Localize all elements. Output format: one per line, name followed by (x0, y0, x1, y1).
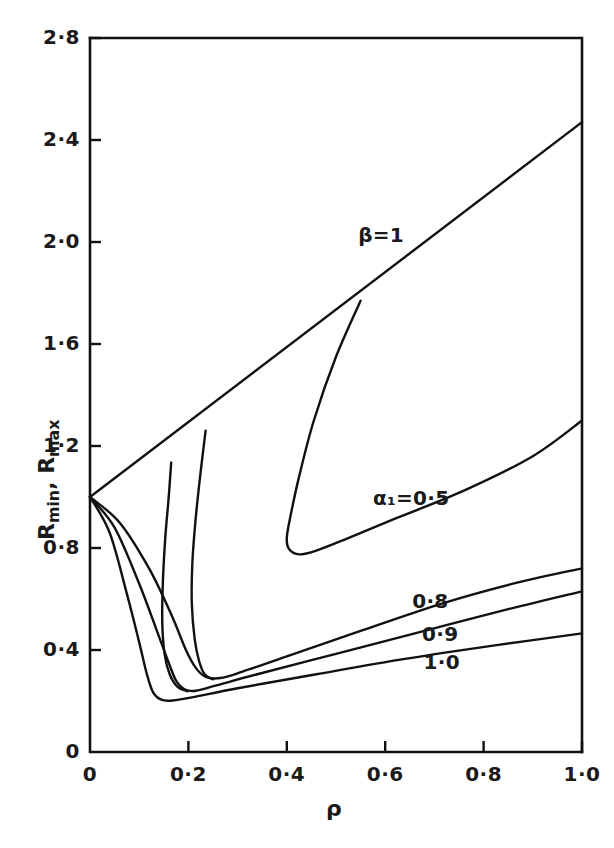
curve-label-alpha1=1.0: 1·0 (424, 650, 460, 674)
x-tick-label: 0·4 (247, 762, 327, 786)
curves-group (90, 122, 582, 701)
curve-alpha1=0.9 (90, 497, 582, 691)
figure-container: 00·40·81·21·62·02·42·800·20·40·60·81·0 β… (0, 0, 614, 848)
x-tick-label: 0·8 (444, 762, 524, 786)
curve-beta=1 (90, 122, 582, 497)
y-tick-label: 0 (8, 739, 80, 763)
y-axis-title: Rmin, Rmax (34, 420, 63, 541)
curve-inner-branch-b (162, 463, 187, 692)
x-tick-label: 1·0 (542, 762, 614, 786)
y-tick-label: 0·4 (8, 637, 80, 661)
y-tick-label: 2·0 (8, 229, 80, 253)
x-tick-label: 0·2 (148, 762, 228, 786)
curve-label-alpha1=0.8: 0·8 (412, 589, 448, 613)
curve-label-alpha1=0.5-label: α₁=0·5 (373, 486, 450, 510)
chart-canvas (0, 0, 614, 848)
y-tick-label: 1·6 (8, 331, 80, 355)
x-tick-label: 0·6 (345, 762, 425, 786)
y-tick-label: 2·4 (8, 127, 80, 151)
x-axis-title: ρ (326, 796, 342, 821)
curve-label-alpha1=0.9: 0·9 (422, 622, 458, 646)
y-axis-title-text: Rmin, Rmax (34, 420, 59, 541)
x-tick-label: 0 (50, 762, 130, 786)
curve-label-beta=1: β=1 (358, 223, 404, 247)
y-tick-label: 2·8 (8, 25, 80, 49)
curve-inner-branch-a (192, 431, 213, 680)
curve-alpha1=0.5-upper (287, 301, 582, 555)
